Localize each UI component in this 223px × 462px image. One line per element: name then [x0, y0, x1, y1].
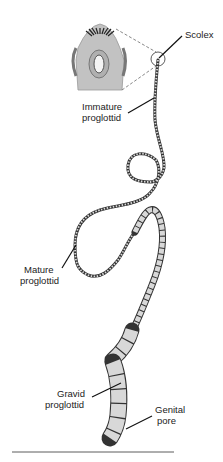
svg-text:proglottid: proglottid [82, 112, 121, 123]
svg-text:Mature: Mature [24, 264, 54, 275]
label-genital-pore: Genital pore [126, 404, 185, 429]
label-gravid-proglottid: Gravid proglottid [45, 383, 121, 410]
scolex-inset [73, 24, 126, 90]
label-immature-proglottid: Immature proglottid [82, 98, 154, 123]
svg-text:Scolex: Scolex [185, 29, 214, 40]
svg-text:pore: pore [157, 415, 176, 426]
svg-text:Gravid: Gravid [57, 388, 85, 399]
label-mature-proglottid: Mature proglottid [20, 245, 76, 286]
tapeworm-diagram: Scolex Immature proglottid Mature proglo… [0, 0, 223, 462]
svg-text:Genital: Genital [155, 404, 185, 415]
svg-text:proglottid: proglottid [20, 275, 59, 286]
svg-text:proglottid: proglottid [45, 399, 84, 410]
svg-text:Immature: Immature [82, 101, 122, 112]
label-scolex: Scolex [159, 29, 214, 58]
